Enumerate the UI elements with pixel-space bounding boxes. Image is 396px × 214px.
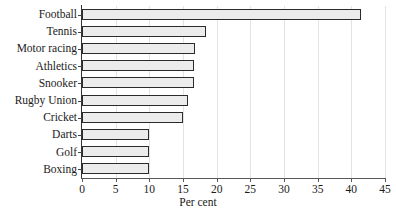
x-tick	[183, 178, 184, 182]
bar	[82, 163, 149, 174]
x-tick	[351, 178, 352, 182]
x-axis-title: Per cent	[0, 196, 396, 208]
category-label-tennis: Tennis	[47, 23, 78, 40]
x-tick	[116, 178, 117, 182]
category-label-motor-racing: Motor racing	[17, 40, 77, 57]
category-tick	[78, 83, 82, 84]
bar	[82, 43, 195, 54]
category-label-snooker: Snooker	[39, 75, 77, 92]
category-label-darts: Darts	[52, 126, 77, 143]
category-tick	[78, 152, 82, 153]
x-tick-label-25: 25	[237, 183, 263, 196]
category-label-rugby-union: Rugby Union	[15, 92, 77, 109]
x-tick	[149, 178, 150, 182]
x-axis-line	[81, 178, 386, 179]
bar	[82, 95, 188, 106]
x-tick-label-40: 40	[338, 183, 364, 196]
x-tick	[284, 178, 285, 182]
category-label-golf: Golf	[56, 144, 77, 161]
x-tick-label-35: 35	[305, 183, 331, 196]
x-tick-label-45: 45	[372, 183, 396, 196]
category-tick	[78, 101, 82, 102]
x-tick	[250, 178, 251, 182]
category-label-cricket: Cricket	[43, 109, 77, 126]
category-tick	[78, 118, 82, 119]
bar	[82, 77, 194, 88]
bar	[82, 9, 361, 20]
category-tick	[78, 15, 82, 16]
x-tick	[82, 178, 83, 182]
category-tick	[78, 49, 82, 50]
x-tick	[385, 178, 386, 182]
bar	[82, 129, 149, 140]
category-tick	[78, 32, 82, 33]
x-tick-label-0: 0	[69, 183, 95, 196]
category-tick	[78, 66, 82, 67]
bar-chart: FootballTennisMotor racingAthleticsSnook…	[0, 0, 396, 214]
bar	[82, 26, 206, 37]
category-label-boxing: Boxing	[43, 161, 77, 178]
x-tick-label-10: 10	[136, 183, 162, 196]
x-tick-label-15: 15	[170, 183, 196, 196]
category-label-football: Football	[39, 6, 77, 23]
x-tick-label-20: 20	[204, 183, 230, 196]
category-tick	[78, 135, 82, 136]
x-tick	[318, 178, 319, 182]
category-label-athletics: Athletics	[35, 58, 77, 75]
x-tick	[217, 178, 218, 182]
bar	[82, 112, 183, 123]
bar	[82, 60, 194, 71]
x-tick-label-30: 30	[271, 183, 297, 196]
category-tick	[78, 169, 82, 170]
bar	[82, 146, 149, 157]
x-tick-label-5: 5	[103, 183, 129, 196]
